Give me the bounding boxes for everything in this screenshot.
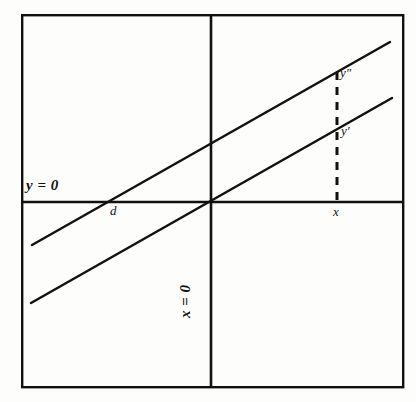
- plot-canvas: [0, 0, 416, 402]
- curve-label-y-prime: y′: [341, 124, 350, 137]
- axis-label-x-equals-zero: x = 0: [178, 258, 193, 318]
- point-label-d: d: [110, 204, 117, 217]
- figure-container: y = 0 d x y″ y′ x = 0: [0, 0, 416, 402]
- point-label-x: x: [333, 205, 339, 218]
- axis-label-y-equals-zero: y = 0: [26, 178, 59, 193]
- curve-label-y-double-prime: y″: [340, 66, 351, 79]
